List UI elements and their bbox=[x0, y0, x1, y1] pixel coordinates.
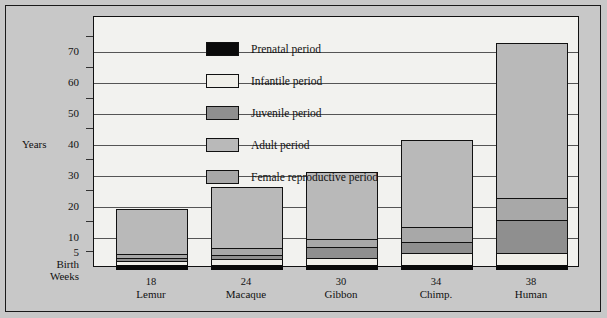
y-minor-tick-35 bbox=[86, 159, 93, 160]
legend-swatch-prenatal bbox=[206, 42, 239, 56]
legend-label-female-reproductive: Female reproductive period bbox=[251, 171, 378, 183]
birth-label: Birth bbox=[50, 259, 79, 271]
legend-swatch-female-reproductive bbox=[206, 170, 239, 184]
legend-item-infantile[interactable]: Infantile period bbox=[206, 73, 322, 89]
legend-item-adult[interactable]: Adult period bbox=[206, 137, 309, 153]
y-tick-label-40: 40 bbox=[68, 139, 79, 150]
x-label-group-human: 38 Human bbox=[495, 275, 567, 301]
y-minor-tick-5 bbox=[86, 251, 93, 252]
y-minor-tick-25 bbox=[86, 190, 93, 191]
y-tick-label-30: 30 bbox=[68, 170, 79, 181]
legend-item-juvenile[interactable]: Juvenile period bbox=[206, 105, 322, 121]
figure-panel: Years 70 60 50 40 30 20 10 5 Birth Weeks bbox=[0, 0, 607, 318]
y-minor-tick-55 bbox=[86, 98, 93, 99]
x-label-group-macaque: 24 Macaque bbox=[210, 275, 282, 301]
bar-human[interactable] bbox=[496, 43, 568, 266]
bar-segment-human-adult bbox=[497, 44, 567, 199]
legend-label-infantile: Infantile period bbox=[251, 75, 322, 87]
bar-segment-chimp-female-reproductive bbox=[402, 227, 472, 243]
x-label-group-gibbon: 30 Gibbon bbox=[305, 275, 377, 301]
legend-label-prenatal: Prenatal period bbox=[251, 43, 321, 55]
y-axis-title: Years bbox=[22, 139, 47, 150]
legend-label-adult: Adult period bbox=[251, 139, 309, 151]
y-minor-tick-75 bbox=[86, 36, 93, 37]
legend-swatch-juvenile bbox=[206, 106, 239, 120]
bar-segment-human-juvenile bbox=[497, 220, 567, 254]
bar-segment-chimp-adult bbox=[402, 141, 472, 228]
x-weeks-gibbon: 30 bbox=[305, 275, 377, 288]
y-tick-label-5: 5 bbox=[74, 247, 80, 258]
x-weeks-lemur: 18 bbox=[115, 275, 187, 288]
bar-lemur[interactable] bbox=[116, 209, 188, 266]
y-tick-label-10: 10 bbox=[68, 232, 79, 243]
bar-macaque[interactable] bbox=[211, 187, 283, 266]
bar-segment-human-infantile bbox=[497, 253, 567, 265]
y-minor-tick-65 bbox=[86, 67, 93, 68]
y-minor-tick-15 bbox=[86, 221, 93, 222]
y-tick-label-70: 70 bbox=[68, 46, 79, 57]
x-species-human: Human bbox=[495, 288, 567, 301]
bar-segment-gibbon-infantile bbox=[307, 258, 377, 265]
birth-weeks-label: Birth Weeks bbox=[50, 259, 79, 282]
y-minor-tick-45 bbox=[86, 128, 93, 129]
plot-area: Prenatal period Infantile period Juvenil… bbox=[93, 16, 579, 267]
bar-chimp[interactable] bbox=[401, 140, 473, 266]
y-tick-label-50: 50 bbox=[68, 108, 79, 119]
x-species-lemur: Lemur bbox=[115, 288, 187, 301]
y-tick-label-20: 20 bbox=[68, 201, 79, 212]
legend-swatch-adult bbox=[206, 138, 239, 152]
bar-segment-chimp-infantile bbox=[402, 253, 472, 265]
x-species-macaque: Macaque bbox=[210, 288, 282, 301]
bar-segment-human-female-reproductive bbox=[497, 198, 567, 221]
bar-gibbon[interactable] bbox=[306, 172, 378, 266]
legend-label-juvenile: Juvenile period bbox=[251, 107, 322, 119]
legend-item-prenatal[interactable]: Prenatal period bbox=[206, 41, 321, 57]
x-weeks-human: 38 bbox=[495, 275, 567, 288]
x-label-group-lemur: 18 Lemur bbox=[115, 275, 187, 301]
x-weeks-macaque: 24 bbox=[210, 275, 282, 288]
x-species-chimp: Chimp. bbox=[400, 288, 472, 301]
legend-swatch-infantile bbox=[206, 74, 239, 88]
x-axis: 18 Lemur 24 Macaque 30 Gibbon 34 Chimp. … bbox=[93, 269, 579, 309]
bar-segment-lemur-adult bbox=[117, 210, 187, 255]
x-species-gibbon: Gibbon bbox=[305, 288, 377, 301]
x-weeks-chimp: 34 bbox=[400, 275, 472, 288]
y-tick-label-60: 60 bbox=[68, 77, 79, 88]
weeks-label: Weeks bbox=[50, 271, 79, 283]
y-axis: Years 70 60 50 40 30 20 10 5 Birth Weeks bbox=[0, 0, 93, 283]
legend-item-female-reproductive[interactable]: Female reproductive period bbox=[206, 169, 378, 185]
bar-segment-macaque-adult bbox=[212, 188, 282, 249]
x-label-group-chimp: 34 Chimp. bbox=[400, 275, 472, 301]
